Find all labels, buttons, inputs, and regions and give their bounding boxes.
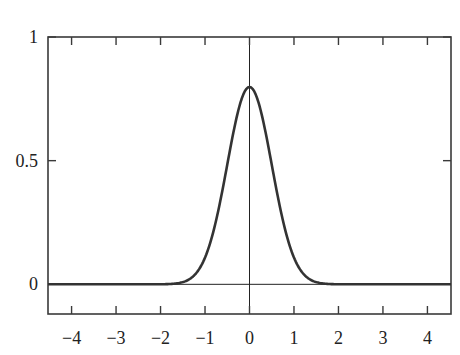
y-tick-label: 0.5 (16, 151, 39, 171)
density-chart: −4−3−2−101234 00.51 (0, 0, 460, 355)
x-tick-label: −2 (151, 328, 170, 348)
x-tick-label: 3 (378, 328, 387, 348)
x-tick-label: 2 (334, 328, 343, 348)
x-tick-label: 4 (423, 328, 432, 348)
x-tick-label: −4 (62, 328, 81, 348)
reference-lines (48, 37, 451, 314)
x-tick-label: −3 (106, 328, 125, 348)
y-tick-label: 0 (29, 274, 38, 294)
x-axis-ticks: −4−3−2−101234 (62, 37, 432, 348)
y-axis-ticks: 00.51 (16, 27, 452, 294)
x-tick-label: 1 (289, 328, 298, 348)
y-tick-label: 1 (29, 27, 38, 47)
x-tick-label: −1 (195, 328, 214, 348)
x-tick-label: 0 (245, 328, 254, 348)
